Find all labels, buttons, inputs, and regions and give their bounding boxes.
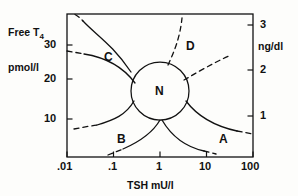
x-tick-label-0.01: .01 bbox=[57, 161, 72, 172]
curve-b-lower bbox=[123, 120, 160, 149]
y-left-tick-label-20: 20 bbox=[44, 73, 56, 84]
curve-b-lower-dashed-tail bbox=[108, 149, 123, 155]
region-label-d: D bbox=[186, 40, 195, 52]
curve-b-upper bbox=[97, 101, 134, 125]
curve-d-right-dashed bbox=[184, 55, 231, 80]
x-axis-title: TSH mU/l bbox=[127, 180, 174, 191]
curve-a-lower-dashed-tail bbox=[204, 151, 216, 154]
curve-c-upper-dashed-tail bbox=[75, 15, 83, 22]
curve-a-upper-dashed-tail bbox=[237, 131, 253, 134]
y-right-ticks bbox=[248, 25, 254, 116]
y-right-tick-label-2: 2 bbox=[260, 64, 266, 75]
curve-a-lower bbox=[162, 120, 204, 151]
y-right-tick-label-3: 3 bbox=[260, 19, 266, 30]
region-label-a: A bbox=[219, 133, 228, 145]
x-tick-label-0.1: .1 bbox=[108, 161, 117, 172]
curve-b-upper-dashed-tail bbox=[74, 125, 97, 129]
region-label-n: N bbox=[155, 85, 164, 97]
curve-c-upper bbox=[83, 21, 131, 72]
curve-a-upper bbox=[186, 101, 237, 131]
y-left-axis-unit: pmol/l bbox=[8, 62, 39, 73]
x-axis-ticks bbox=[67, 152, 253, 158]
y-left-axis-title-text: Free T bbox=[8, 26, 40, 38]
y-right-axis-unit: ng/dl bbox=[258, 41, 283, 52]
y-right-tick-label-1: 1 bbox=[260, 110, 266, 121]
x-tick-label-1: 1 bbox=[156, 161, 162, 172]
thyroid-function-diagram: Free T4 pmol/l 30 20 10 3 ng/dl 2 1 .01 … bbox=[0, 0, 298, 196]
y-left-tick-label-30: 30 bbox=[44, 39, 56, 50]
y-left-tick-label-10: 10 bbox=[44, 113, 56, 124]
y-left-ticks bbox=[67, 45, 73, 119]
x-tick-label-100: 100 bbox=[241, 161, 259, 172]
curve-c-lower-dashed-tail bbox=[67, 51, 84, 54]
y-left-axis-title: Free T4 bbox=[8, 27, 44, 41]
x-tick-label-10: 10 bbox=[199, 161, 211, 172]
region-label-b: B bbox=[117, 133, 126, 145]
region-label-c: C bbox=[104, 51, 113, 63]
curve-d-left-dashed bbox=[168, 18, 182, 65]
